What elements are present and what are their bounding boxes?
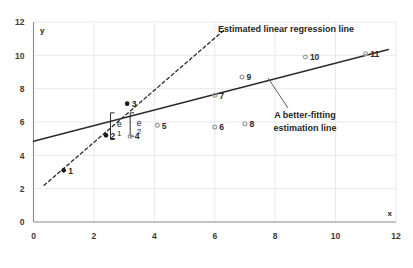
data-point-9: 9	[240, 72, 251, 82]
x-tick-label: 10	[331, 231, 341, 241]
x-tick-label: 0	[31, 231, 36, 241]
point-label-10: 10	[310, 52, 320, 62]
point-marker-filled	[104, 133, 109, 138]
point-marker-filled	[125, 101, 130, 106]
better-fit-line-label-1: A better-fitting	[274, 110, 336, 120]
y-tick-label: 4	[20, 151, 25, 161]
y-tick-label: 6	[20, 117, 25, 127]
residual-e1-subscript: 1	[117, 129, 122, 138]
y-tick-label: 10	[15, 51, 25, 61]
y-tick-label: 0	[20, 217, 25, 227]
x-axis-name: x	[388, 209, 393, 218]
data-point-3: 3	[125, 99, 137, 109]
annotation-leader-lines	[268, 78, 288, 108]
residual-e1-letter: e	[117, 119, 122, 129]
point-label-1: 1	[68, 166, 73, 176]
y-tick-label: 12	[15, 17, 25, 27]
point-label-2: 2	[111, 131, 116, 141]
point-label-3: 3	[132, 99, 137, 109]
annotation-labels: Estimated linear regression lineA better…	[218, 24, 354, 133]
grid-lines	[34, 22, 397, 222]
better-fit-leader-line	[268, 78, 288, 108]
point-marker-open	[303, 55, 307, 59]
point-label-5: 5	[162, 121, 167, 131]
point-label-8: 8	[249, 119, 254, 129]
point-marker-open	[364, 52, 368, 56]
regression-scatter-chart: 024681012024681012 e1e2 1234567891011 Es…	[0, 0, 413, 268]
x-tick-label: 8	[273, 231, 278, 241]
chart-canvas: 024681012024681012 e1e2 1234567891011 Es…	[0, 0, 413, 268]
point-label-9: 9	[246, 72, 251, 82]
point-marker-open	[243, 122, 247, 126]
point-marker-open	[240, 75, 244, 79]
point-marker-filled	[61, 168, 66, 173]
x-tick-label: 6	[212, 231, 217, 241]
tick-labels: 024681012024681012	[15, 17, 401, 241]
point-label-11: 11	[370, 49, 379, 59]
x-tick-label: 4	[152, 231, 157, 241]
data-point-10: 10	[303, 52, 319, 62]
data-point-11: 11	[364, 49, 380, 59]
point-label-4: 4	[135, 131, 140, 141]
y-tick-label: 2	[20, 184, 25, 194]
x-tick-label: 12	[391, 231, 401, 241]
regression-line-label: Estimated linear regression line	[218, 24, 354, 34]
residual-e2-letter: e	[137, 118, 142, 128]
point-label-7: 7	[219, 91, 224, 101]
point-marker-open	[155, 123, 159, 127]
data-point-1: 1	[61, 166, 73, 176]
point-label-6: 6	[219, 122, 224, 132]
better-fit-line-label-2: estimation line	[273, 123, 336, 133]
data-point-8: 8	[243, 119, 254, 129]
x-tick-label: 2	[92, 231, 97, 241]
y-axis-name: y	[40, 26, 45, 35]
y-tick-label: 8	[20, 84, 25, 94]
